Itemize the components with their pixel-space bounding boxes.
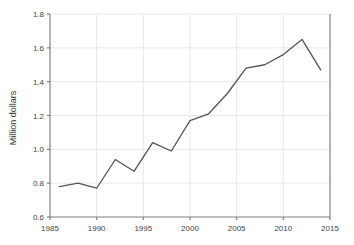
x-tick-label: 1985 [41, 224, 59, 233]
y-tick-label: 1.0 [33, 145, 45, 154]
x-tick-label: 1995 [134, 224, 152, 233]
y-tick-label: 0.6 [33, 213, 45, 222]
y-tick-label: 0.8 [33, 179, 45, 188]
line-chart: 1985199019952000200520102015 0.60.81.01.… [0, 0, 354, 245]
y-tick-label: 1.2 [33, 112, 45, 121]
y-axis-title: Million dollars [8, 90, 18, 145]
y-tick-label: 1.8 [33, 10, 45, 19]
x-tick-label: 2015 [321, 224, 339, 233]
x-tick-label: 2005 [228, 224, 246, 233]
chart-canvas: 1985199019952000200520102015 0.60.81.01.… [0, 0, 354, 245]
y-tick-label: 1.6 [33, 44, 45, 53]
x-tick-label: 1990 [88, 224, 106, 233]
y-tick-label: 1.4 [33, 78, 45, 87]
chart-background [0, 0, 354, 245]
x-tick-label: 2010 [274, 224, 292, 233]
x-tick-label: 2000 [181, 224, 199, 233]
